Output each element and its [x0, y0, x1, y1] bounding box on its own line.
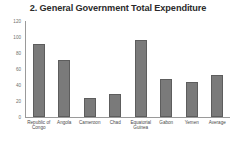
y-axis-tick-label: 20 [0, 99, 21, 104]
x-axis-tick-label: Angola [52, 120, 78, 125]
bar-slot [26, 21, 52, 117]
bar[interactable] [58, 60, 70, 117]
bar-slot [77, 21, 103, 117]
bar[interactable] [135, 40, 147, 117]
y-axis-tick-label: 120 [0, 19, 21, 24]
bar-slot [154, 21, 180, 117]
y-axis-tick-label: 80 [0, 51, 21, 56]
y-axis-tick-label: 100 [0, 35, 21, 40]
bar[interactable] [84, 98, 96, 117]
bar-slot [128, 21, 154, 117]
bar[interactable] [211, 75, 223, 117]
bar-slot [103, 21, 129, 117]
x-axis-tick-label: Cameroon [77, 120, 103, 125]
bar[interactable] [186, 82, 198, 117]
bar-slot [179, 21, 205, 117]
y-axis-tick-label: 40 [0, 83, 21, 88]
bar-slot [205, 21, 231, 117]
y-axis-tick-label: 0 [0, 115, 21, 120]
bar[interactable] [33, 44, 45, 117]
x-axis-tick-labels: Republic of CongoAngolaCameroonChadEquat… [26, 120, 230, 142]
x-axis-tick-label: Yemen [179, 120, 205, 125]
bar[interactable] [160, 79, 172, 117]
y-axis-tick-labels: 020406080100120 [0, 21, 24, 118]
x-axis-tick-label: Equatorial Guinea [128, 120, 154, 131]
x-axis-tick-label: Average [205, 120, 231, 125]
bar-series [26, 21, 230, 117]
x-axis-tick-label: Gabon [154, 120, 180, 125]
bar-slot [52, 21, 78, 117]
x-axis-tick-label: Chad [103, 120, 129, 125]
x-axis-line [25, 117, 230, 118]
chart-container: 2. General Government Total Expenditure … [0, 0, 236, 143]
bar[interactable] [109, 94, 121, 117]
y-axis-tick-label: 60 [0, 67, 21, 72]
chart-title: 2. General Government Total Expenditure [0, 3, 236, 13]
x-axis-tick-label: Republic of Congo [26, 120, 52, 131]
